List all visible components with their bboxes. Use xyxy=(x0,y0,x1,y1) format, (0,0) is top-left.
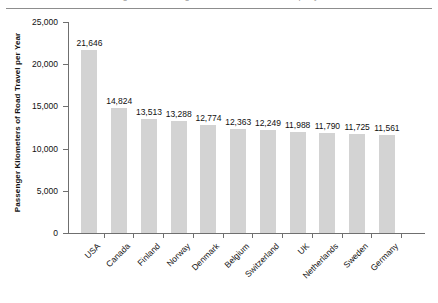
y-axis-tick xyxy=(63,22,69,23)
bar xyxy=(230,129,246,233)
x-axis-tick xyxy=(342,234,343,238)
x-axis-tick xyxy=(312,234,313,238)
bar-value-label: 14,824 xyxy=(96,96,142,106)
y-axis-title: Passenger Kilometers of Road Travel per … xyxy=(13,18,22,228)
bar-chart: Passenger Kilometers of Road Travel per … xyxy=(0,0,438,303)
bar xyxy=(141,119,157,233)
y-axis-tick xyxy=(63,64,69,65)
bar-value-label: 11,561 xyxy=(364,123,410,133)
x-axis-tick xyxy=(252,234,253,238)
bar xyxy=(81,50,97,233)
y-axis-line xyxy=(68,22,69,234)
y-axis-tick xyxy=(63,106,69,107)
bar xyxy=(200,125,216,233)
bar xyxy=(171,121,187,233)
bar xyxy=(290,132,306,233)
y-axis-tick-label: 25,000 xyxy=(8,17,58,27)
y-axis-tick-label: 20,000 xyxy=(8,59,58,69)
y-axis-tick-label: 15,000 xyxy=(8,101,58,111)
x-axis-tick xyxy=(223,234,224,238)
y-axis-tick xyxy=(63,233,69,234)
bar xyxy=(319,133,335,233)
x-axis-tick xyxy=(371,234,372,238)
x-axis-tick xyxy=(401,234,402,238)
bar xyxy=(379,135,395,233)
bar-value-label: 21,646 xyxy=(66,38,112,48)
y-axis-tick-label: 0 xyxy=(8,228,58,238)
y-axis-tick-label: 5,000 xyxy=(8,186,58,196)
bar xyxy=(349,134,365,233)
x-axis-tick xyxy=(104,234,105,238)
y-axis-tick-label: 10,000 xyxy=(8,144,58,154)
x-axis-tick xyxy=(133,234,134,238)
x-axis-tick xyxy=(282,234,283,238)
x-axis-tick xyxy=(163,234,164,238)
bar xyxy=(260,130,276,233)
x-axis-tick xyxy=(193,234,194,238)
y-axis-tick xyxy=(63,149,69,150)
y-axis-tick xyxy=(63,191,69,192)
bar xyxy=(111,108,127,233)
chart-page: Figure — Passenger kilometers of road tr… xyxy=(0,0,438,303)
